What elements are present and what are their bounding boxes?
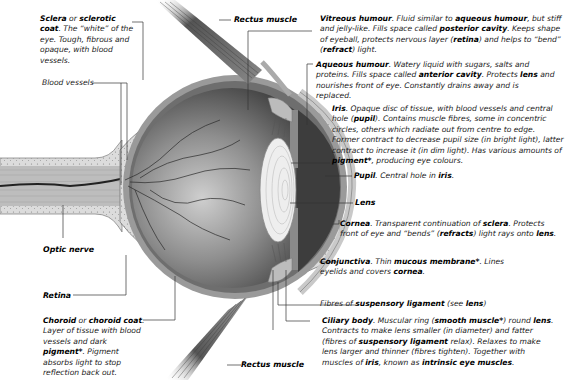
term: suspensory ligament xyxy=(355,299,444,308)
label-lens: Lens xyxy=(355,198,375,207)
text: , producing eye colours. xyxy=(372,156,464,165)
text: . Transparent continuation of xyxy=(370,219,483,228)
text: . xyxy=(452,171,454,180)
text: ) round xyxy=(503,316,533,325)
label-ciliary-body: Ciliary body. Muscular ring (smooth musc… xyxy=(322,316,558,368)
term: sclera xyxy=(483,219,509,228)
text: . Thin xyxy=(370,257,394,266)
term: lens xyxy=(533,316,551,325)
term: refract xyxy=(323,45,352,54)
label-iris: Iris. Opaque disc of tissue, with blood … xyxy=(332,104,564,166)
term: smooth muscle* xyxy=(435,316,504,325)
term: iris xyxy=(438,171,451,180)
text: ) xyxy=(483,299,486,308)
text: . xyxy=(512,358,514,367)
label-rectus-muscle-bottom: Rectus muscle xyxy=(241,360,304,369)
label-vitreous-humour: Vitreous humour. Fluid similar to aqueou… xyxy=(320,14,565,56)
label-rectus-muscle-top: Rectus muscle xyxy=(234,15,297,24)
term-pupil: Pupil xyxy=(354,171,375,180)
label-blood-vessels: Blood vessels xyxy=(42,78,94,87)
term-sclera: Sclera xyxy=(40,14,67,23)
term: lens xyxy=(520,70,538,79)
text: or xyxy=(67,14,80,23)
text: (see xyxy=(445,299,466,308)
text: , known as xyxy=(379,358,422,367)
term-pigment: pigment* xyxy=(43,347,83,356)
text: . Fluid similar to xyxy=(392,14,455,23)
term-choroid-coat: choroid coat xyxy=(89,316,142,325)
term-vitreous-humour: Vitreous humour xyxy=(320,14,392,23)
term: mucous membrane* xyxy=(394,257,479,266)
text: . Muscular ring ( xyxy=(373,316,435,325)
text: Fibres of xyxy=(320,299,355,308)
term: lens xyxy=(466,299,484,308)
term-choroid: Choroid xyxy=(43,316,76,325)
text: . Protects xyxy=(482,70,520,79)
term: posterior cavity xyxy=(440,24,508,33)
label-sclera: Sclera or sclerotic coat. The “white” of… xyxy=(40,14,135,66)
text: . xyxy=(554,229,556,238)
eye-diagram: Sclera or sclerotic coat. The “white” of… xyxy=(0,0,566,386)
term: aqueous humour xyxy=(455,14,527,23)
label-choroid: Choroid or choroid coat. Layer of tissue… xyxy=(43,316,148,378)
text: ) light rays onto xyxy=(473,229,536,238)
label-pupil: Pupil. Central hole in iris. xyxy=(354,171,534,181)
term: refracts xyxy=(440,229,474,238)
text: or xyxy=(76,316,89,325)
term: intrinsic eye muscles xyxy=(422,358,512,367)
text: . Central hole in xyxy=(375,171,438,180)
term: pupil xyxy=(354,114,375,123)
term-conjunctiva: Conjunctiva xyxy=(320,257,370,266)
term: cornea xyxy=(393,267,422,276)
term: lens xyxy=(536,229,554,238)
term-aqueous-humour: Aqueous humour xyxy=(316,60,389,69)
term: iris xyxy=(365,358,378,367)
term: retina xyxy=(453,35,479,44)
label-aqueous-humour: Aqueous humour. Watery liquid with sugar… xyxy=(316,60,556,102)
text: . xyxy=(423,267,425,276)
label-retina: Retina xyxy=(43,291,71,300)
term: suspensory ligament xyxy=(359,337,448,346)
term-cornea: Cornea xyxy=(340,219,370,228)
label-cornea: Cornea. Transparent continuation of scle… xyxy=(340,219,562,240)
text: ) light. xyxy=(352,45,377,54)
term-iris: Iris xyxy=(332,104,346,113)
term: pigment* xyxy=(332,156,372,165)
label-optic-nerve: Optic nerve xyxy=(43,245,94,254)
term: anterior cavity xyxy=(419,70,482,79)
term-ciliary-body: Ciliary body xyxy=(322,316,373,325)
label-conjunctiva: Conjunctiva. Thin mucous membrane*. Line… xyxy=(320,257,505,278)
label-suspensory-ligament: Fibres of suspensory ligament (see lens) xyxy=(320,299,550,309)
